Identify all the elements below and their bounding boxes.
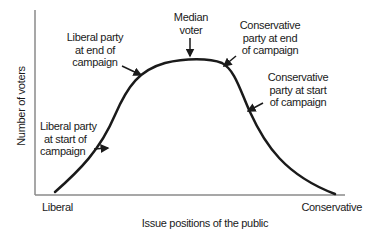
- x-right-label: Conservative: [292, 201, 362, 214]
- median-voter-label: Median voter: [166, 11, 216, 36]
- liberal-start-label: Liberal party at start of campaign: [32, 120, 110, 158]
- conservative-start-label: Conservative party at start of campaign: [264, 71, 332, 109]
- y-axis-label: Number of voters: [15, 61, 27, 151]
- x-left-label: Liberal: [42, 201, 82, 214]
- x-axis-label: Issue positions of the public: [120, 217, 290, 230]
- liberal-end-label: Liberal party at end of campaign: [60, 31, 130, 69]
- conservative-end-arrow: [224, 56, 236, 66]
- conservative-start-arrow: [248, 103, 263, 111]
- conservative-end-label: Conservative party at end of campaign: [236, 19, 304, 57]
